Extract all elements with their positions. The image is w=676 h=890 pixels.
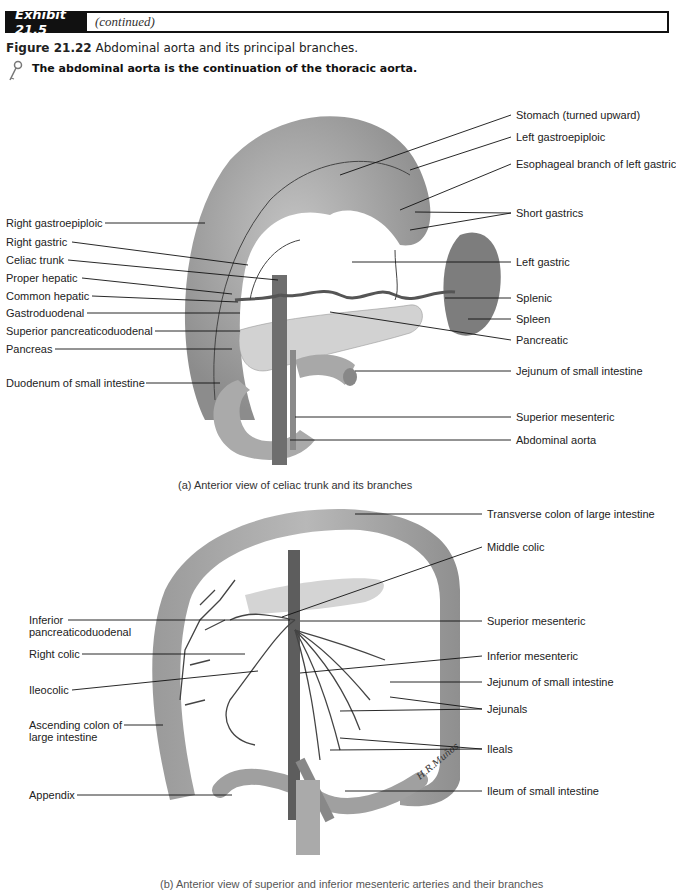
caption-panel-b: (b) Anterior view of superior and inferi…: [160, 878, 543, 890]
label-transverse-colon: Transverse colon of large intestine: [487, 508, 655, 521]
label-inferior-mesenteric: Inferior mesenteric: [487, 650, 578, 663]
label-jejunals: Jejunals: [487, 703, 527, 716]
label-ileocolic: Ileocolic: [29, 684, 69, 697]
label-spleen: Spleen: [516, 313, 550, 326]
label-middle-colic: Middle colic: [487, 541, 544, 554]
abdominal-aorta-shape: [272, 275, 287, 465]
label-stomach: Stomach (turned upward): [516, 109, 640, 122]
label-appendix: Appendix: [29, 789, 75, 802]
label-ileals: Ileals: [487, 743, 513, 756]
label-pancreatic: Pancreatic: [516, 334, 568, 347]
label-ascending-colon-2: large intestine: [29, 731, 98, 744]
label-superior-pancreaticoduodenal: Superior pancreaticoduodenal: [6, 325, 153, 338]
label-common-hepatic: Common hepatic: [6, 290, 89, 303]
caption-panel-a: (a) Anterior view of celiac trunk and it…: [178, 479, 412, 491]
label-inferior-pancreaticoduodenal-2: pancreaticoduodenal: [29, 626, 131, 639]
label-abdominal-aorta: Abdominal aorta: [516, 434, 596, 447]
label-superior-mesenteric-a: Superior mesenteric: [516, 411, 614, 424]
duodenum-shape: [213, 380, 315, 460]
label-splenic: Splenic: [516, 292, 552, 305]
label-esophageal-branch: Esophageal branch of left gastric: [516, 158, 676, 171]
label-left-gastric: Left gastric: [516, 256, 570, 269]
label-right-colic: Right colic: [29, 648, 80, 661]
label-right-gastroepiploic: Right gastroepiploic: [6, 217, 103, 230]
label-celiac-trunk: Celiac trunk: [6, 254, 64, 267]
label-jejunum-a: Jejunum of small intestine: [516, 365, 643, 378]
label-short-gastrics: Short gastrics: [516, 207, 583, 220]
spleen-shape: [443, 232, 500, 335]
label-duodenum: Duodenum of small intestine: [6, 377, 145, 390]
panel-a-illustration: [185, 116, 501, 465]
label-proper-hepatic: Proper hepatic: [6, 272, 78, 285]
label-left-gastroepiploic: Left gastroepiploic: [516, 131, 605, 144]
label-gastroduodenal: Gastroduodenal: [6, 307, 84, 320]
label-superior-mesenteric-b: Superior mesenteric: [487, 615, 585, 628]
label-ileum: Ileum of small intestine: [487, 785, 599, 798]
label-right-gastric: Right gastric: [6, 236, 67, 249]
label-jejunum-b: Jejunum of small intestine: [487, 676, 614, 689]
label-pancreas: Pancreas: [6, 343, 52, 356]
